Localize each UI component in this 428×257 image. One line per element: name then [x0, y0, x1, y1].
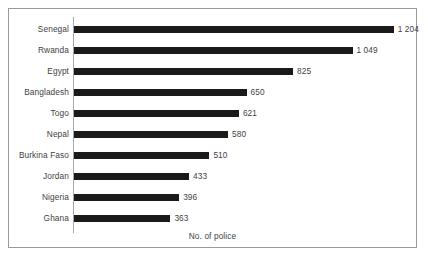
bar [74, 173, 189, 180]
bar [74, 131, 228, 138]
bar-row: Burkina Faso510 [9, 145, 416, 166]
bar-value-label: 396 [183, 187, 197, 208]
bar-row: Senegal1 204 [9, 19, 416, 40]
bar [74, 89, 247, 96]
bar-row: Togo621 [9, 103, 416, 124]
category-label: Rwanda [9, 40, 69, 61]
category-label: Togo [9, 103, 69, 124]
bar-value-label: 433 [193, 166, 207, 187]
category-label: Egypt [9, 61, 69, 82]
category-label: Nigeria [9, 187, 69, 208]
plot-area: Senegal1 204Rwanda1 049Egypt825Banglades… [9, 9, 416, 247]
category-label: Senegal [9, 19, 69, 40]
bar-value-label: 621 [243, 103, 257, 124]
bar [74, 194, 179, 201]
category-label: Jordan [9, 166, 69, 187]
bar-value-label: 1 204 [398, 19, 419, 40]
bar [74, 152, 209, 159]
bar-value-label: 825 [297, 61, 311, 82]
bar-row: Egypt825 [9, 61, 416, 82]
bar-row: Nepal580 [9, 124, 416, 145]
bar-row: Nigeria396 [9, 187, 416, 208]
bar-value-label: 510 [213, 145, 227, 166]
bar [74, 215, 170, 222]
bar [74, 110, 239, 117]
bar-row: Rwanda1 049 [9, 40, 416, 61]
bar-value-label: 1 049 [357, 40, 378, 61]
bar-value-label: 363 [174, 208, 188, 229]
bar-row: Bangladesh650 [9, 82, 416, 103]
bar-row: Ghana363 [9, 208, 416, 229]
bar-value-label: 580 [232, 124, 246, 145]
bar-row: Jordan433 [9, 166, 416, 187]
bar [74, 47, 353, 54]
category-label: Ghana [9, 208, 69, 229]
bar-value-label: 650 [251, 82, 265, 103]
x-axis-title: No. of police [9, 231, 416, 241]
bar [74, 68, 293, 75]
bar [74, 26, 394, 33]
category-label: Nepal [9, 124, 69, 145]
category-label: Bangladesh [9, 82, 69, 103]
chart-frame: Senegal1 204Rwanda1 049Egypt825Banglades… [8, 8, 417, 248]
category-label: Burkina Faso [9, 145, 69, 166]
